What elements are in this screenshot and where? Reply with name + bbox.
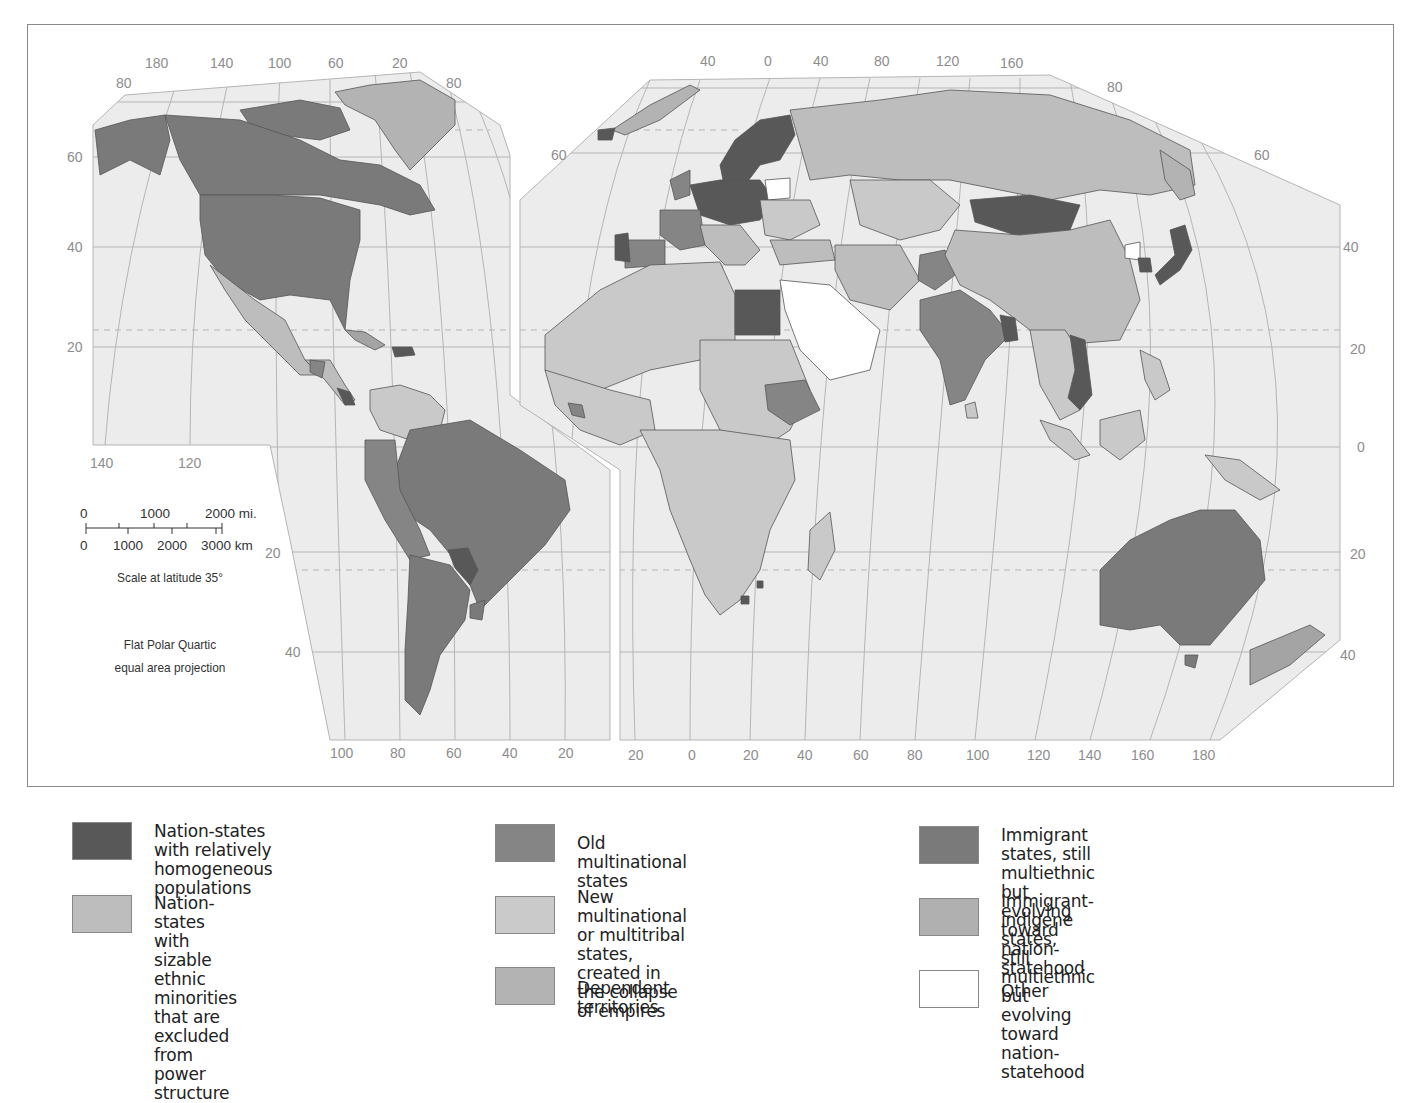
svg-text:40: 40 [700, 53, 716, 69]
legend-swatch-dependent [495, 967, 555, 1005]
svg-text:1000: 1000 [113, 538, 143, 553]
svg-text:140: 140 [1078, 747, 1102, 763]
legend-label: Nation-states with relatively homogeneou… [154, 822, 272, 898]
svg-text:20: 20 [1350, 341, 1366, 357]
svg-text:60: 60 [328, 55, 344, 71]
svg-text:40: 40 [502, 745, 518, 761]
legend-label: Other [1001, 982, 1048, 1001]
svg-text:40: 40 [813, 53, 829, 69]
egypt [735, 290, 780, 335]
svg-text:0: 0 [80, 538, 88, 553]
legend-swatch-other [919, 970, 979, 1008]
scale-bar: 0 1000 2000 mi. 0 1000 2000 3000 km [80, 506, 257, 553]
svg-text:60: 60 [551, 147, 567, 163]
swaziland [757, 581, 763, 588]
svg-text:20: 20 [743, 747, 759, 763]
svg-text:80: 80 [446, 75, 462, 91]
svg-text:100: 100 [330, 745, 354, 761]
legend-swatch-ethnic-minorities [72, 895, 132, 933]
svg-text:0: 0 [764, 53, 772, 69]
svg-text:0: 0 [80, 506, 88, 521]
legend-label: Nation-states with sizable ethnic minori… [154, 894, 237, 1103]
svg-text:20: 20 [265, 545, 281, 561]
legend-swatch-immigrant-indigene [919, 898, 979, 936]
svg-text:180: 180 [1192, 747, 1216, 763]
legend-label: Old multinational states [577, 834, 687, 891]
svg-text:3000 km: 3000 km [201, 538, 253, 553]
legend-swatch-old-multinational [495, 824, 555, 862]
svg-text:2000 mi.: 2000 mi. [205, 506, 257, 521]
legend-item-other: Other [919, 970, 1048, 1008]
svg-text:0: 0 [688, 747, 696, 763]
svg-text:60: 60 [446, 745, 462, 761]
korea-south [1138, 258, 1152, 272]
svg-text:40: 40 [1340, 647, 1356, 663]
svg-text:120: 120 [1027, 747, 1051, 763]
legend-item-homogeneous: Nation-states with relatively homogeneou… [72, 822, 272, 898]
legend-label: Dependent territories [577, 979, 669, 1017]
svg-text:60: 60 [67, 149, 83, 165]
svg-text:1000: 1000 [140, 506, 170, 521]
svg-text:140: 140 [210, 55, 234, 71]
svg-text:20: 20 [558, 745, 574, 761]
svg-text:40: 40 [1343, 239, 1359, 255]
svg-text:60: 60 [1254, 147, 1270, 163]
lesotho [741, 596, 749, 604]
svg-text:100: 100 [268, 55, 292, 71]
svg-text:80: 80 [874, 53, 890, 69]
svg-text:80: 80 [1107, 79, 1123, 95]
svg-text:120: 120 [178, 455, 202, 471]
projection-note-line1: Flat Polar Quartic [82, 637, 258, 652]
svg-text:160: 160 [1131, 747, 1155, 763]
belarus [765, 178, 790, 200]
legend-item-dependent: Dependent territories [495, 967, 669, 1017]
legend-swatch-immigrant [919, 826, 979, 864]
iceland [598, 128, 615, 140]
turkey [770, 240, 835, 265]
svg-text:80: 80 [907, 747, 923, 763]
svg-text:20: 20 [628, 747, 644, 763]
svg-text:160: 160 [1000, 55, 1024, 71]
svg-text:40: 40 [797, 747, 813, 763]
svg-text:20: 20 [67, 339, 83, 355]
legend-swatch-new-multinational [495, 896, 555, 934]
svg-text:40: 40 [285, 644, 301, 660]
svg-text:20: 20 [392, 55, 408, 71]
haiti-dominican [392, 347, 415, 357]
korea-north [1125, 242, 1140, 260]
svg-text:140: 140 [90, 455, 114, 471]
scale-caption: Scale at latitude 35° [82, 570, 258, 585]
projection-note-line2: equal area projection [82, 660, 258, 675]
svg-text:0: 0 [1357, 439, 1365, 455]
svg-text:80: 80 [116, 75, 132, 91]
iberia [625, 240, 665, 268]
svg-text:20: 20 [1350, 546, 1366, 562]
svg-text:40: 40 [67, 239, 83, 255]
legend-item-old-multinational: Old multinational states [495, 824, 687, 891]
svg-text:2000: 2000 [157, 538, 187, 553]
svg-text:100: 100 [966, 747, 990, 763]
portugal [615, 233, 630, 262]
svg-text:60: 60 [853, 747, 869, 763]
svg-text:180: 180 [145, 55, 169, 71]
svg-text:120: 120 [936, 53, 960, 69]
legend-swatch-homogeneous [72, 822, 132, 860]
legend-item-ethnic-minorities: Nation-states with sizable ethnic minori… [72, 895, 237, 1103]
svg-text:80: 80 [390, 745, 406, 761]
